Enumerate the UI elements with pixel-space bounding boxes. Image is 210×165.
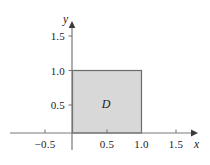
y-tick-label-1.5: 1.5 <box>42 30 65 42</box>
x-tick-label-1.5: 1.5 <box>169 138 183 150</box>
y-axis-label: y <box>63 13 68 25</box>
y-axis-arrow-icon <box>69 21 76 28</box>
x-tick-label-1.0: 1.0 <box>134 138 148 150</box>
y-tick-label-0.5: 0.5 <box>42 99 65 111</box>
region-label-d: D <box>102 97 111 112</box>
y-tick-label-1.0: 1.0 <box>42 65 65 77</box>
x-axis-arrow-icon <box>191 130 198 137</box>
x-tick-label-0.5: 0.5 <box>100 138 114 150</box>
x-axis-label: x <box>194 138 199 150</box>
x-tick-label-neg0.5: −0.5 <box>35 138 56 150</box>
figure-canvas: y x 1.5 1.0 0.5 −0.5 0.5 1.0 1.5 D <box>0 0 210 165</box>
